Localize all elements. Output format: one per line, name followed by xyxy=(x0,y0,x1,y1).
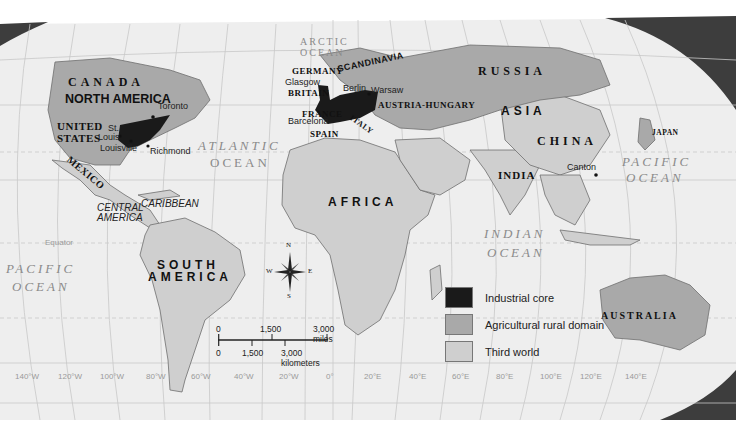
compass-rose: N S W E xyxy=(270,246,310,298)
label-india: INDIA xyxy=(498,170,535,181)
label-arctic-ocean-1: ARCTIC xyxy=(300,37,349,47)
scale-km-0: 0 xyxy=(216,348,221,358)
label-lon-100e: 100°E xyxy=(540,373,562,381)
label-lon-40w: 40°W xyxy=(234,373,254,381)
label-pacific-ocean-west-2: OCEAN xyxy=(12,280,70,293)
label-china: CHINA xyxy=(537,135,597,147)
label-lon-120w: 120°W xyxy=(58,373,82,381)
label-austria-hungary: AUSTRIA-HUNGARY xyxy=(378,101,475,110)
label-lon-60w: 60°W xyxy=(191,373,211,381)
label-lon-120e: 120°E xyxy=(580,373,602,381)
label-australia: AUSTRALIA xyxy=(601,311,678,321)
legend-swatch-agricultural xyxy=(445,314,473,335)
label-lon-20w: 20°W xyxy=(279,373,299,381)
map-legend: Industrial core Agricultural rural domai… xyxy=(445,284,604,365)
compass-n: N xyxy=(286,242,291,249)
label-pacific-ocean-west-1: PACIFIC xyxy=(6,262,75,275)
compass-s: S xyxy=(287,293,291,300)
label-lon-100w: 100°W xyxy=(100,373,124,381)
label-indian-ocean-1: INDIAN xyxy=(484,227,545,240)
label-canada: CANADA xyxy=(68,76,144,88)
label-asia: ASIA xyxy=(501,105,546,117)
scale-km-3000: 3,000 kilometers xyxy=(281,348,334,368)
label-lon-80w: 80°W xyxy=(146,373,166,381)
label-indian-ocean-2: OCEAN xyxy=(487,246,545,259)
scale-km-1500: 1,500 xyxy=(242,348,263,358)
legend-item-agricultural: Agricultural rural domain xyxy=(445,311,604,338)
label-lon-60e: 60°E xyxy=(452,373,469,381)
label-toronto: Toronto xyxy=(158,102,188,111)
label-united-states-1: UNITED xyxy=(57,121,103,132)
scale-bar-line xyxy=(218,334,330,346)
label-north-america: NORTH AMERICA xyxy=(65,93,171,106)
label-japan: JAPAN xyxy=(652,129,679,137)
label-spain: SPAIN xyxy=(310,130,339,139)
label-atlantic-ocean-2: OCEAN xyxy=(210,156,270,169)
legend-swatch-industrial-core xyxy=(445,287,473,308)
label-barcelona: Barcelona xyxy=(288,117,329,126)
label-lon-140w: 140°W xyxy=(15,373,39,381)
scale-miles-0: 0 xyxy=(216,324,221,334)
compass-star-icon xyxy=(270,246,310,298)
label-lon-40e: 40°E xyxy=(409,373,426,381)
label-canton: Canton xyxy=(567,163,596,172)
label-glasgow: Glasgow xyxy=(285,78,320,87)
legend-item-industrial-core: Industrial core xyxy=(445,284,604,311)
compass-w: W xyxy=(266,268,273,275)
label-lon-20e: 20°E xyxy=(364,373,381,381)
legend-label: Third world xyxy=(485,346,539,358)
label-richmond: Richmond xyxy=(150,147,191,156)
label-st-louis-2: Louis xyxy=(98,133,120,142)
label-central-america-2: AMERICA xyxy=(97,213,143,223)
label-russia: RUSSIA xyxy=(478,65,546,77)
label-arctic-ocean-2: OCEAN xyxy=(300,48,344,58)
label-pacific-ocean-east-2: OCEAN xyxy=(626,171,684,184)
label-lon-80e: 80°E xyxy=(496,373,513,381)
scale-miles-1500: 1,500 xyxy=(260,324,281,334)
legend-item-third-world: Third world xyxy=(445,338,604,365)
label-united-states-2: STATES xyxy=(57,133,101,144)
legend-label: Agricultural rural domain xyxy=(485,319,604,331)
label-south-america-2: AMERICA xyxy=(148,271,232,283)
label-berlin: Berlin xyxy=(343,84,366,93)
label-britain: BRITAIN xyxy=(288,89,329,98)
label-warsaw: Warsaw xyxy=(371,86,403,95)
label-africa: AFRICA xyxy=(328,196,397,208)
label-germany: GERMANY xyxy=(292,67,343,76)
legend-swatch-third-world xyxy=(445,341,473,362)
scale-bar: 0 1,500 3,000 miles 0 1,500 3,000 kilome… xyxy=(214,324,334,360)
label-caribbean: CARIBBEAN xyxy=(141,199,199,209)
label-pacific-ocean-east-1: PACIFIC xyxy=(622,155,691,168)
label-atlantic-ocean-1: ATLANTIC xyxy=(198,139,281,152)
label-lon-0: 0° xyxy=(326,373,334,381)
label-louisville: Louisville xyxy=(100,144,137,153)
label-lon-140e: 140°E xyxy=(625,373,647,381)
label-equator: Equator xyxy=(45,239,73,247)
legend-label: Industrial core xyxy=(485,292,554,304)
compass-e: E xyxy=(308,268,312,275)
